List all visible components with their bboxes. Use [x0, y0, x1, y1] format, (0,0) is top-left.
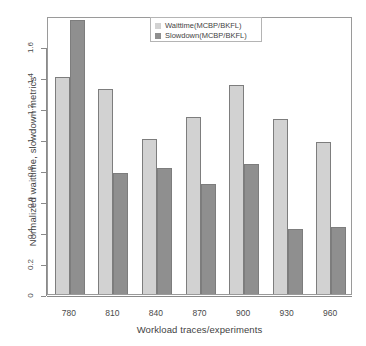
- x-tick-label: 780: [54, 308, 84, 318]
- y-tick-mark: [41, 172, 46, 173]
- bar-waittime-900: [229, 85, 244, 295]
- y-tick-label: 1.6: [26, 40, 35, 56]
- y-tick-mark: [41, 48, 46, 49]
- y-tick-label: 0.8: [26, 164, 35, 180]
- y-tick-label: 0: [26, 288, 35, 304]
- y-tick-label: 1: [26, 133, 35, 149]
- bar-waittime-810: [98, 89, 113, 295]
- bar-waittime-780: [55, 77, 70, 295]
- legend-item-waittime: Waittime(MCBP/BKFL): [155, 21, 257, 31]
- y-tick-mark: [41, 203, 46, 204]
- plot-area: [47, 17, 352, 295]
- y-tick-label: 0.2: [26, 257, 35, 273]
- bar-waittime-960: [316, 142, 331, 295]
- x-tick-label: 840: [141, 308, 171, 318]
- bar-slowdown-780: [70, 20, 85, 295]
- x-tick-label: 870: [185, 308, 215, 318]
- x-tick-label: 960: [315, 308, 345, 318]
- y-tick-mark: [41, 265, 46, 266]
- bar-slowdown-810: [113, 173, 128, 295]
- y-tick-label: 0.6: [26, 195, 35, 211]
- bar-slowdown-870: [201, 184, 216, 295]
- bar-waittime-840: [142, 139, 157, 295]
- legend-item-slowdown: Slowdown(MCBP/BKFL): [155, 31, 257, 41]
- bar-waittime-930: [273, 119, 288, 295]
- x-tick-label: 900: [228, 308, 258, 318]
- legend: Waittime(MCBP/BKFL) Slowdown(MCBP/BKFL): [150, 17, 262, 42]
- bar-slowdown-840: [157, 168, 172, 295]
- legend-swatch-waittime-icon: [155, 23, 161, 29]
- y-tick-label: 1.2: [26, 102, 35, 118]
- bar-chart: Normalized waittime, slowdown metrics Wo…: [0, 0, 366, 346]
- x-tick-label: 930: [272, 308, 302, 318]
- y-tick-mark: [41, 296, 46, 297]
- bar-waittime-870: [186, 117, 201, 295]
- x-tick-label: 810: [97, 308, 127, 318]
- bar-slowdown-900: [244, 164, 259, 295]
- x-axis-title: Workload traces/experiments: [47, 324, 352, 335]
- bar-slowdown-930: [288, 229, 303, 295]
- y-tick-label: 1.4: [26, 71, 35, 87]
- y-tick-mark: [41, 141, 46, 142]
- x-axis-line: [47, 296, 352, 297]
- y-tick-mark: [41, 234, 46, 235]
- legend-swatch-slowdown-icon: [155, 33, 161, 39]
- bar-slowdown-960: [331, 227, 346, 295]
- y-tick-mark: [41, 79, 46, 80]
- y-tick-mark: [41, 110, 46, 111]
- legend-label-waittime: Waittime(MCBP/BKFL): [165, 21, 241, 31]
- legend-label-slowdown: Slowdown(MCBP/BKFL): [165, 31, 247, 41]
- y-tick-label: 0.4: [26, 226, 35, 242]
